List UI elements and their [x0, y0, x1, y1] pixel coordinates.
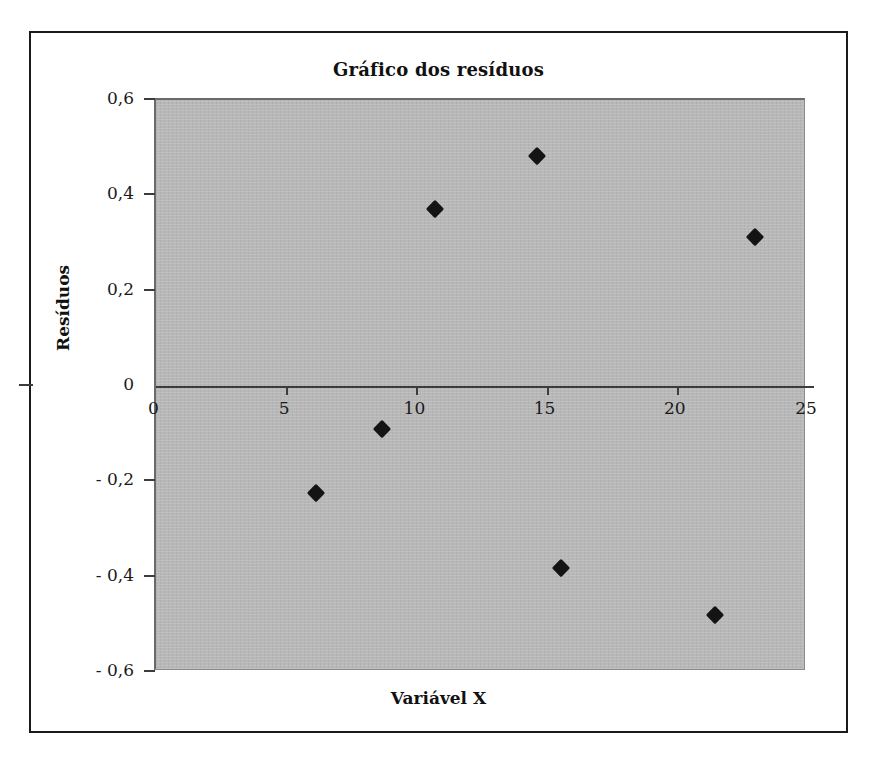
y-tick-0: [144, 98, 155, 100]
data-point: [425, 199, 443, 217]
data-point: [705, 606, 723, 624]
y-tick-label-5: - 0,4: [96, 565, 134, 585]
data-point: [528, 147, 546, 165]
x-axis-title: Variável X: [31, 688, 846, 708]
x-tick-label-10: 10: [404, 398, 426, 418]
plot-texture: [156, 100, 804, 669]
x-tick-20: [677, 386, 679, 395]
x-tick-label-25: 25: [795, 398, 817, 418]
x-tick-label-15: 15: [534, 398, 556, 418]
x-tick-label-5: 5: [279, 398, 290, 418]
y-tick-5: [144, 575, 155, 577]
data-point: [552, 559, 570, 577]
zero-axis-line-stub: [19, 384, 33, 386]
y-tick-6: [144, 670, 155, 672]
y-tick-4: [144, 479, 155, 481]
x-tick-15: [547, 386, 549, 395]
y-tick-2: [144, 289, 155, 291]
y-tick-label-2: 0,2: [107, 279, 134, 299]
x-tick-10: [416, 386, 418, 395]
y-tick-label-1: 0,4: [107, 183, 134, 203]
x-tick-label-0: 0: [148, 398, 159, 418]
y-axis-title: Resíduos: [53, 265, 73, 351]
y-tick-label-0: 0,6: [107, 88, 134, 108]
plot-area: [154, 98, 805, 670]
y-tick-label-6: - 0,6: [96, 660, 134, 680]
data-point: [373, 420, 391, 438]
y-tick-label-4: - 0,2: [96, 469, 134, 489]
x-tick-5: [286, 386, 288, 395]
chart-title: Gráfico dos resíduos: [31, 59, 846, 80]
x-tick-label-20: 20: [664, 398, 686, 418]
y-tick-1: [144, 193, 155, 195]
data-point: [746, 228, 764, 246]
figure-frame: Gráfico dos resíduos 0,60,40,20- 0,2- 0,…: [29, 31, 848, 733]
y-tick-label-3: 0: [123, 374, 134, 394]
data-point: [307, 484, 325, 502]
zero-axis-line: [156, 386, 814, 388]
